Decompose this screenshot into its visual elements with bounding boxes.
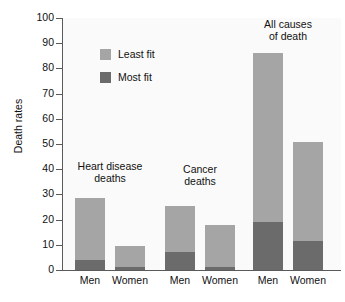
bar-segment-most-fit [293, 241, 323, 270]
y-axis-tick-label: 90 [42, 37, 54, 48]
y-axis-tick [56, 194, 63, 195]
y-axis-tick-label: 80 [42, 62, 54, 73]
y-axis-tick [56, 68, 63, 69]
y-axis-tick-label: 20 [42, 214, 54, 225]
legend-item-least-fit: Least fit [100, 48, 155, 60]
y-axis-tick-label: 50 [42, 138, 54, 149]
y-axis-tick-label: 60 [42, 113, 54, 124]
bar-segment-most-fit [115, 267, 145, 270]
y-axis-tick [56, 119, 63, 120]
x-axis-line [56, 270, 341, 271]
y-axis-tick [56, 245, 63, 246]
bar-segment-least-fit [253, 53, 283, 223]
legend-swatch-least-fit-icon [100, 49, 111, 60]
legend-label-least-fit: Least fit [118, 48, 155, 60]
bar-segment-least-fit [165, 206, 195, 252]
bar-segment-most-fit [165, 252, 195, 270]
group-annotation-3: All causes of death [248, 18, 328, 42]
y-axis-tick [56, 169, 63, 170]
bar-women-group2 [205, 225, 235, 270]
legend-label-most-fit: Most fit [118, 71, 152, 83]
bar-men-group1 [75, 198, 105, 270]
y-axis-title: Death rates [12, 81, 24, 171]
y-axis-tick-label: 40 [42, 163, 54, 174]
y-axis-tick [56, 18, 63, 19]
x-axis-label-women-6: Women [278, 275, 338, 287]
bar-men-group2 [165, 206, 195, 270]
y-axis-tick-label: 0 [48, 264, 54, 275]
legend-item-most-fit: Most fit [100, 71, 155, 83]
y-axis-tick-label: 100 [36, 12, 54, 23]
bar-segment-most-fit [253, 222, 283, 270]
bar-segment-most-fit [75, 260, 105, 270]
death-rates-stacked-bar-chart: 0102030405060708090100 Death rates MenWo… [0, 0, 345, 302]
y-axis-tick [56, 94, 63, 95]
bar-segment-least-fit [115, 246, 145, 267]
group-annotation-1: Heart disease deaths [70, 160, 150, 184]
bar-segment-least-fit [75, 198, 105, 260]
y-axis-tick [56, 144, 63, 145]
chart-legend: Least fit Most fit [100, 48, 155, 94]
y-axis-tick-label: 30 [42, 188, 54, 199]
group-annotation-2: Cancer deaths [160, 163, 240, 187]
y-axis-tick [56, 43, 63, 44]
y-axis-tick-label: 70 [42, 88, 54, 99]
bar-segment-most-fit [205, 267, 235, 270]
bar-segment-least-fit [205, 225, 235, 268]
bar-women-group1 [115, 246, 145, 270]
y-axis-tick [56, 220, 63, 221]
bar-segment-least-fit [293, 142, 323, 241]
y-axis-tick-label: 10 [42, 239, 54, 250]
y-axis-tick [56, 270, 63, 271]
bar-men-group3 [253, 53, 283, 270]
legend-swatch-most-fit-icon [100, 72, 111, 83]
bar-women-group3 [293, 142, 323, 270]
